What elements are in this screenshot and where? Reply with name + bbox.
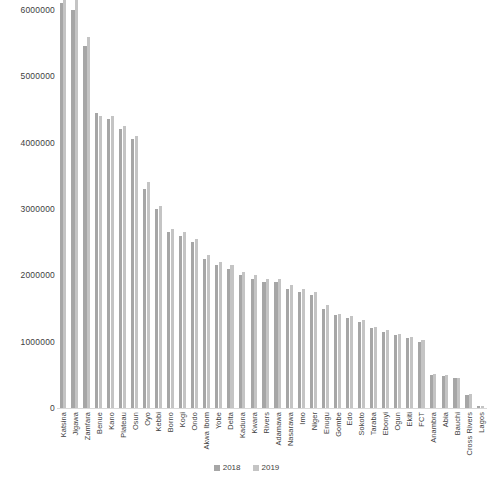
bar-chart: 0100000020000003000000400000050000006000… bbox=[0, 0, 493, 493]
bar-group bbox=[69, 10, 81, 408]
x-axis-tick-label: Borno bbox=[166, 412, 175, 432]
bar-group bbox=[272, 10, 284, 408]
bar-group bbox=[260, 10, 272, 408]
x-axis-tick-label: Benue bbox=[94, 412, 103, 434]
y-axis-tick-label: 3000000 bbox=[3, 204, 55, 214]
x-axis-label-slot: Ekiti bbox=[403, 410, 415, 470]
x-axis-tick-label: Jigawa bbox=[70, 412, 79, 436]
bar-2018 bbox=[262, 282, 265, 408]
bar-2018 bbox=[155, 209, 158, 408]
x-axis-tick-label: Edo bbox=[345, 412, 354, 425]
bar-group bbox=[248, 10, 260, 408]
bar-2018 bbox=[239, 275, 242, 408]
bar-2018 bbox=[71, 10, 74, 408]
legend-label: 2019 bbox=[262, 463, 280, 472]
x-axis-label-slot: Kogi bbox=[176, 410, 188, 470]
x-axis-label-slot: Ebonyi bbox=[379, 410, 391, 470]
x-axis-tick-label: Ondo bbox=[190, 412, 199, 430]
x-axis-tick-label: Lagos bbox=[476, 412, 485, 433]
bar-2019 bbox=[278, 279, 281, 408]
bar-2018 bbox=[274, 282, 277, 408]
x-axis-baseline bbox=[57, 408, 487, 409]
bar-2018 bbox=[394, 335, 397, 408]
bar-2018 bbox=[227, 269, 230, 408]
bar-group bbox=[153, 10, 165, 408]
bar-group bbox=[463, 10, 475, 408]
plot-bars bbox=[57, 10, 487, 408]
bar-2018 bbox=[453, 378, 456, 408]
x-axis-tick-label: Abia bbox=[440, 412, 449, 427]
bar-group bbox=[308, 10, 320, 408]
bar-2019 bbox=[195, 239, 198, 408]
bar-2019 bbox=[421, 340, 424, 408]
y-axis-tick-label: 6000000 bbox=[3, 5, 55, 15]
legend-item[interactable]: 2018 bbox=[214, 463, 241, 472]
x-axis-tick-label: Adamawa bbox=[273, 412, 282, 446]
y-axis-tick-label: 4000000 bbox=[3, 138, 55, 148]
bar-2018 bbox=[442, 376, 445, 408]
x-axis-tick-label: FCT bbox=[417, 412, 426, 427]
x-axis-labels: KatsinaJigawaZamfaraBenueKanoPlateauOsun… bbox=[57, 410, 487, 470]
bar-2018 bbox=[430, 375, 433, 408]
bar-2019 bbox=[266, 279, 269, 408]
bar-2019 bbox=[63, 0, 66, 408]
y-axis-tick-label: 0 bbox=[3, 403, 55, 413]
bar-group bbox=[129, 10, 141, 408]
bar-group bbox=[332, 10, 344, 408]
x-axis-label-slot: Ogun bbox=[391, 410, 403, 470]
x-axis-label-slot: Katsina bbox=[57, 410, 69, 470]
bar-2019 bbox=[254, 275, 257, 408]
y-axis-tick-label: 2000000 bbox=[3, 270, 55, 280]
x-axis-tick-label: Sokoto bbox=[357, 412, 366, 436]
x-axis-tick-label: Rivers bbox=[261, 412, 270, 434]
bar-2019 bbox=[362, 320, 365, 408]
x-axis-label-slot: Kano bbox=[105, 410, 117, 470]
bar-2019 bbox=[207, 255, 210, 408]
chart-legend: 20182019 bbox=[0, 463, 493, 472]
bar-group bbox=[379, 10, 391, 408]
bar-2019 bbox=[457, 378, 460, 409]
bar-group bbox=[391, 10, 403, 408]
bar-2019 bbox=[123, 126, 126, 408]
bar-2019 bbox=[111, 116, 114, 408]
x-axis-label-slot: Ondo bbox=[188, 410, 200, 470]
bar-group bbox=[200, 10, 212, 408]
bar-2019 bbox=[171, 229, 174, 408]
x-axis-tick-label: Katsina bbox=[58, 412, 67, 437]
bar-group bbox=[403, 10, 415, 408]
bar-2019 bbox=[386, 330, 389, 408]
bar-2019 bbox=[374, 327, 377, 408]
x-axis-tick-label: Gombe bbox=[333, 412, 342, 437]
bar-2019 bbox=[433, 374, 436, 408]
bar-2019 bbox=[445, 375, 448, 408]
x-axis-label-slot: Anambra bbox=[427, 410, 439, 470]
bar-2018 bbox=[298, 292, 301, 408]
x-axis-label-slot: Enugu bbox=[320, 410, 332, 470]
bar-2019 bbox=[302, 289, 305, 408]
bar-group bbox=[344, 10, 356, 408]
bar-2019 bbox=[135, 136, 138, 408]
bar-2019 bbox=[159, 206, 162, 408]
x-axis-label-slot: Niger bbox=[308, 410, 320, 470]
x-axis-label-slot: Plateau bbox=[117, 410, 129, 470]
bar-group bbox=[236, 10, 248, 408]
bar-2019 bbox=[87, 37, 90, 408]
x-axis-tick-label: Nasarawa bbox=[285, 412, 294, 446]
x-axis-label-slot: Nasarawa bbox=[284, 410, 296, 470]
x-axis-label-slot: Borno bbox=[164, 410, 176, 470]
bar-2019 bbox=[219, 262, 222, 408]
bar-2018 bbox=[143, 189, 146, 408]
x-axis-tick-label: Akwa Ibom bbox=[202, 412, 211, 449]
bar-2019 bbox=[338, 314, 341, 408]
bar-group bbox=[141, 10, 153, 408]
x-axis-label-slot: Imo bbox=[296, 410, 308, 470]
bar-group bbox=[367, 10, 379, 408]
bar-2018 bbox=[406, 338, 409, 408]
bar-group bbox=[224, 10, 236, 408]
y-axis-tick-label: 1000000 bbox=[3, 337, 55, 347]
bar-2018 bbox=[286, 289, 289, 408]
bar-group bbox=[296, 10, 308, 408]
bar-group bbox=[355, 10, 367, 408]
legend-item[interactable]: 2019 bbox=[253, 463, 280, 472]
x-axis-tick-label: Ekiti bbox=[405, 412, 414, 426]
